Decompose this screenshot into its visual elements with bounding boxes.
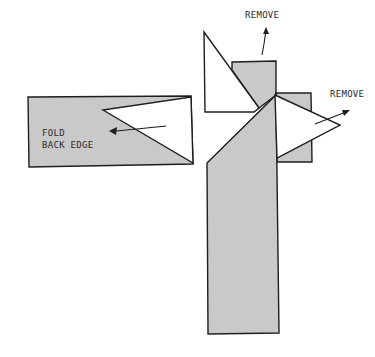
remove-top-label: REMOVE bbox=[245, 10, 279, 20]
fold-label-line1: FOLD bbox=[42, 128, 65, 138]
joint-diagram: REMOVE REMOVE FOLD BACK EDGE bbox=[0, 0, 375, 357]
arrow-remove-top-icon bbox=[262, 27, 269, 55]
remove-right-label: REMOVE bbox=[330, 89, 364, 99]
vertical-strip bbox=[207, 95, 279, 334]
diagram-canvas: REMOVE REMOVE FOLD BACK EDGE bbox=[0, 0, 375, 357]
fold-label-line2: BACK EDGE bbox=[42, 140, 93, 150]
